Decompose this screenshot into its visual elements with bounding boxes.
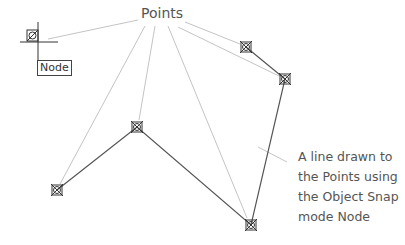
points-label: Points <box>141 5 183 21</box>
description-line: the Points using <box>298 167 405 187</box>
description-line: A line drawn to <box>298 147 405 167</box>
point-marker-icon <box>51 184 63 196</box>
point-marker-icon <box>279 73 291 85</box>
description-text: A line drawn to the Points using the Obj… <box>298 147 405 227</box>
point-marker-icon <box>131 121 143 133</box>
crosshair-cursor-icon <box>20 22 58 62</box>
snap-tooltip: Node <box>37 60 72 76</box>
point-marker-icon <box>245 219 257 231</box>
description-line: the Object Snap <box>298 187 405 207</box>
point-marker-icon <box>240 41 252 53</box>
point-markers <box>51 41 291 231</box>
snapped-polyline[interactable] <box>57 47 285 225</box>
description-line: mode Node <box>298 207 405 227</box>
